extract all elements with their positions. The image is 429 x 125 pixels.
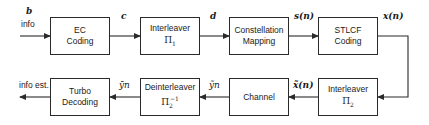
constellation-line1: Constellation: [234, 25, 283, 36]
signal-c-label: c: [121, 11, 126, 21]
interleaver1-symbol: Π1: [164, 34, 176, 50]
signal-x-label: x(n): [383, 11, 403, 21]
deinterleaver-label: Deinterleaver: [145, 82, 196, 93]
stlcf-line2: Coding: [335, 36, 362, 47]
interleaver1-label: Interleaver: [150, 23, 190, 34]
signal-x-tilde-label: x̃(n): [293, 80, 313, 90]
signal-d-label: d: [210, 11, 216, 21]
signal-b-label: b: [26, 6, 32, 16]
signal-s-label: s(n): [294, 11, 314, 21]
constellation-mapping-block: Constellation Mapping: [229, 17, 289, 55]
stlcf-line1: STLCF: [335, 25, 362, 36]
channel-label: Channel: [243, 92, 275, 103]
interleaver2-symbol: Π2: [342, 95, 354, 111]
interleaver2-label: Interleaver: [328, 84, 368, 95]
output-info-est-label: info est.: [19, 80, 49, 90]
input-info-label: info: [21, 19, 35, 29]
deinterleaver-block: Deinterleaver Π2−1: [140, 78, 200, 116]
stlcf-coding-block: STLCF Coding: [318, 17, 378, 55]
signal-y-bar-label: ȳn: [119, 80, 130, 90]
ec-coding-line1: EC: [74, 25, 86, 36]
turbo-line2: Decoding: [62, 97, 98, 108]
arrow-stlcf-to-interleaver2: [378, 36, 408, 97]
ec-coding-block: EC Coding: [50, 17, 110, 55]
deinterleaver-symbol: Π2−1: [161, 93, 179, 112]
constellation-line2: Mapping: [243, 36, 276, 47]
turbo-line1: Turbo: [69, 86, 91, 97]
interleaver1-block: Interleaver Π1: [140, 17, 200, 55]
signal-y-tilde-label: ỹn: [209, 80, 220, 90]
interleaver2-block: Interleaver Π2: [318, 78, 378, 116]
channel-block: Channel: [229, 78, 289, 116]
turbo-decoding-block: Turbo Decoding: [50, 78, 110, 116]
ec-coding-line2: Coding: [67, 36, 94, 47]
